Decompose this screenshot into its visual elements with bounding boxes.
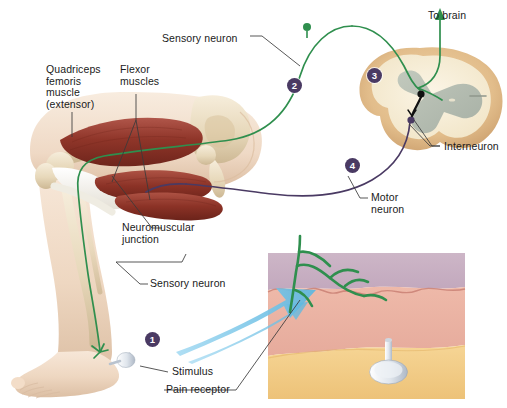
label-quadriceps: Quadriceps femoris muscle (extensor) bbox=[46, 64, 101, 110]
label-to-brain: To brain bbox=[428, 10, 466, 22]
step-badge-2: 2 bbox=[287, 78, 302, 93]
label-flexor-muscles: Flexor muscles bbox=[120, 64, 159, 87]
sensory-cell-body bbox=[303, 23, 311, 31]
skin-cross-section-inset bbox=[268, 253, 465, 399]
step-badge-1: 1 bbox=[145, 332, 160, 347]
label-sensory-neuron-top: Sensory neuron bbox=[162, 33, 238, 45]
step-badge-3: 3 bbox=[367, 68, 382, 83]
step-badge-4: 4 bbox=[345, 158, 360, 173]
spinal-cord-cross-section bbox=[360, 47, 503, 150]
label-sensory-neuron-bottom: Sensory neuron bbox=[150, 278, 226, 290]
label-neuromuscular-junction: Neuromuscular junction bbox=[122, 222, 195, 245]
diagram-canvas bbox=[0, 0, 507, 408]
label-motor-neuron: Motor neuron bbox=[371, 192, 404, 215]
label-interneuron: Interneuron bbox=[444, 141, 499, 153]
label-pain-receptor: Pain receptor bbox=[166, 384, 230, 396]
motor-neuron-cell-body bbox=[407, 116, 414, 123]
label-stimulus: Stimulus bbox=[172, 366, 213, 378]
reflex-arc-figure: Quadriceps femoris muscle (extensor) Fle… bbox=[0, 0, 507, 408]
